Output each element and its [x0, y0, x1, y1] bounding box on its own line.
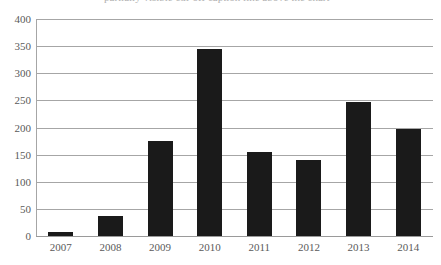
x-tick-label-2013: 2013: [334, 242, 384, 253]
bar-2014[interactable]: [396, 129, 421, 236]
bar-2010[interactable]: [197, 49, 222, 236]
bar-2008[interactable]: [98, 216, 123, 236]
gridline: [36, 209, 433, 210]
gridline: [36, 19, 433, 20]
x-tick-label-2014: 2014: [383, 242, 433, 253]
bar-2012[interactable]: [296, 160, 321, 236]
gridline: [36, 182, 433, 183]
gridline: [36, 128, 433, 129]
bar-2011[interactable]: [247, 152, 272, 236]
y-tick-label: 150: [0, 150, 31, 161]
bar-2013[interactable]: [346, 102, 371, 236]
y-tick-label: 300: [0, 68, 31, 79]
y-tick-label: 200: [0, 123, 31, 134]
y-tick-label: 50: [0, 204, 31, 215]
bar-2007[interactable]: [48, 232, 73, 236]
x-axis-baseline: [36, 236, 433, 237]
plot-area: [36, 19, 433, 236]
y-tick-label: 0: [0, 231, 31, 242]
gridline: [36, 46, 433, 47]
x-tick-label-2009: 2009: [135, 242, 185, 253]
y-tick-label: 350: [0, 41, 31, 52]
x-tick-label-2008: 2008: [86, 242, 136, 253]
y-tick-label: 100: [0, 177, 31, 188]
bar-2009[interactable]: [148, 141, 173, 236]
y-tick-label: 250: [0, 95, 31, 106]
y-tick-label: 400: [0, 14, 31, 25]
x-axis-tick-labels: 20072008200920102011201220132014: [36, 242, 433, 260]
y-axis-tick-labels: 400350300250200150100500: [0, 0, 33, 265]
x-tick-label-2012: 2012: [284, 242, 334, 253]
gridline: [36, 100, 433, 101]
x-tick-label-2010: 2010: [185, 242, 235, 253]
gridline: [36, 73, 433, 74]
bar-chart-figure: 400350300250200150100500 200720082009201…: [0, 0, 441, 265]
gridline: [36, 155, 433, 156]
x-tick-label-2007: 2007: [36, 242, 86, 253]
x-tick-label-2011: 2011: [235, 242, 285, 253]
